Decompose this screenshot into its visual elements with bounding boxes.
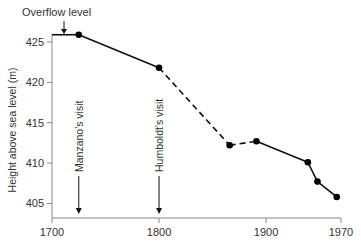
data-point: [333, 194, 340, 201]
overflow-level-label: Overflow level: [22, 6, 91, 18]
y-tick-label: 420: [26, 76, 44, 88]
dashed-segment: [159, 68, 230, 145]
y-axis-label: Height above sea level (m): [6, 68, 18, 193]
x-tick-label: 1900: [254, 226, 278, 238]
overflow-arrowhead-icon: [61, 29, 67, 34]
solid-segment: [256, 141, 307, 162]
data-point: [226, 142, 233, 149]
data-point: [75, 31, 82, 38]
y-tick-label: 425: [26, 36, 44, 48]
visit-label: Humboldt's visit: [153, 99, 165, 172]
y-tick-label: 405: [26, 197, 44, 209]
y-tick-label: 410: [26, 157, 44, 169]
y-axis: 405410415420425: [26, 35, 52, 218]
data-series: [75, 31, 340, 200]
data-point: [314, 178, 321, 185]
solid-segment: [79, 35, 159, 68]
data-point: [156, 65, 163, 72]
y-tick-label: 415: [26, 117, 44, 129]
visit-annotations: Manzano's visitHumboldt's visit: [73, 99, 165, 214]
visit-arrowhead-icon: [76, 208, 82, 214]
lake-level-chart: 405410415420425 1700180019001970 Overflo…: [0, 0, 361, 251]
solid-segment: [317, 182, 336, 197]
data-point: [305, 159, 312, 166]
x-tick-label: 1700: [40, 226, 64, 238]
x-axis: 1700180019001970: [40, 218, 353, 238]
x-tick-label: 1800: [147, 226, 171, 238]
data-point: [253, 138, 260, 145]
visit-label: Manzano's visit: [73, 100, 85, 172]
overflow-annotation: Overflow level: [22, 6, 91, 35]
x-tick-label: 1970: [329, 226, 353, 238]
dashed-segment: [230, 141, 257, 145]
visit-arrowhead-icon: [156, 208, 162, 214]
